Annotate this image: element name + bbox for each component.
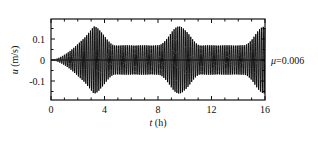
mu-annotation: μ=0.006: [270, 55, 304, 66]
y-tick-label: 0: [40, 55, 45, 66]
y-tick-label: 0.1: [33, 34, 46, 45]
x-tick-label: 4: [102, 104, 107, 115]
x-axis-label: t (h): [150, 117, 167, 129]
x-tick-label: 12: [207, 104, 217, 115]
y-axis-label: u (m/s): [9, 46, 21, 75]
x-tick-label: 8: [156, 104, 161, 115]
x-tick-label: 16: [260, 104, 270, 115]
y-tick-label: -0.1: [29, 76, 45, 87]
x-tick-label: 0: [49, 104, 54, 115]
chart: 04812160.10-0.1t (h)u (m/s)μ=0.006: [0, 0, 318, 141]
